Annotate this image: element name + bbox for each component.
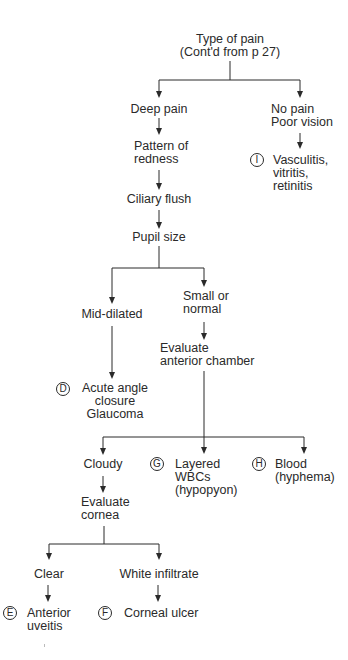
node-line: Cloudy [84,458,123,471]
node-mid-dilated: Mid-dilated [81,308,142,321]
node-line: anterior chamber [160,355,255,368]
scan-artifact [44,644,45,647]
node-line: (Cont'd from p 27) [180,46,280,59]
node-pupil-size: Pupil size [132,231,186,244]
outcome-hypopyon: Layered WBCs (hypopyon) [175,458,238,497]
node-small-or-normal: Small or normal [183,290,229,316]
outcome-badge-f: F [98,606,112,620]
node-line: Mid-dilated [81,308,142,321]
node-cloudy: Cloudy [84,458,123,471]
outcome-line: (hyphema) [275,471,335,484]
outcome-line: Glaucoma [82,408,148,421]
outcome-badge-i: I [250,153,264,167]
node-line: Poor vision [271,116,333,129]
node-no-pain-poor-vision: No pain Poor vision [271,103,333,129]
outcome-badge-e: E [3,606,17,620]
outcome-corneal-ulcer: Corneal ulcer [124,607,198,620]
node-line: Pupil size [132,231,186,244]
outcome-badge-g: G [150,457,164,471]
outcome-hyphema: Blood (hyphema) [275,458,335,484]
outcome-line: (hypopyon) [175,484,238,497]
node-type-of-pain: Type of pain (Cont'd from p 27) [180,33,280,59]
node-line: redness [134,153,188,166]
node-ciliary-flush: Ciliary flush [127,193,192,206]
outcome-badge-d: D [56,382,70,396]
outcome-line: uveitis [27,620,71,633]
node-line: cornea [81,509,130,522]
outcome-line: retinitis [273,180,328,193]
node-white-infiltrate: White infiltrate [119,568,198,581]
outcome-line: Corneal ulcer [124,607,198,620]
connector-lines [0,0,348,660]
node-line: Ciliary flush [127,193,192,206]
outcome-vasculitis: Vasculitis, vitritis, retinitis [273,154,328,193]
node-line: Deep pain [131,103,188,116]
flowchart-canvas: Type of pain (Cont'd from p 27) Deep pai… [0,0,348,660]
node-line: White infiltrate [119,568,198,581]
outcome-badge-h: H [252,457,266,471]
node-line: normal [183,303,229,316]
node-pattern-of-redness: Pattern of redness [134,140,188,166]
outcome-acute-angle-closure-glaucoma: Acute angle closure Glaucoma [82,382,148,421]
node-deep-pain: Deep pain [131,103,188,116]
node-evaluate-cornea: Evaluate cornea [81,496,130,522]
outcome-anterior-uveitis: Anterior uveitis [27,607,71,633]
node-line: Clear [34,568,64,581]
node-clear: Clear [34,568,64,581]
node-evaluate-anterior-chamber: Evaluate anterior chamber [160,342,255,368]
